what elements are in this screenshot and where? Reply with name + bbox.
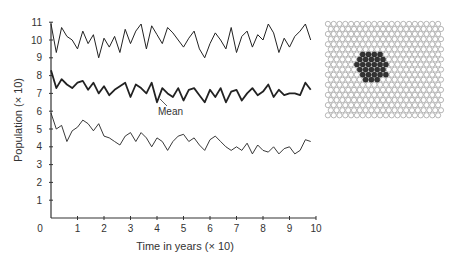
lattice-cell xyxy=(363,47,368,52)
lattice-cell xyxy=(383,31,388,36)
lattice-cell xyxy=(331,52,336,57)
lattice-cell xyxy=(386,47,391,52)
cluster-cell xyxy=(380,57,385,62)
lattice-cell xyxy=(354,113,359,118)
lattice-cell xyxy=(418,52,423,57)
lattice-cell xyxy=(349,72,354,77)
lattice-cell xyxy=(386,87,391,92)
lattice-cell xyxy=(424,82,429,87)
lattice-cell xyxy=(436,52,441,57)
lattice-cell xyxy=(349,113,354,118)
lattice-cell xyxy=(337,82,342,87)
lattice-cell xyxy=(438,26,443,31)
series-upper xyxy=(51,24,311,58)
lattice-cell xyxy=(337,113,342,118)
lattice-cell xyxy=(421,108,426,113)
lattice-cell xyxy=(436,62,441,67)
lattice-cell xyxy=(427,57,432,62)
lattice-cell xyxy=(404,57,409,62)
lattice-cell xyxy=(424,113,429,118)
lattice-cell xyxy=(378,92,383,97)
y-tick-label: 9 xyxy=(36,52,42,63)
lattice-cell xyxy=(404,77,409,82)
y-tick-label: 7 xyxy=(36,88,42,99)
lattice-cell xyxy=(378,82,383,87)
lattice-cell xyxy=(343,82,348,87)
lattice-cell xyxy=(383,103,388,108)
lattice-cell xyxy=(354,82,359,87)
lattice-cell xyxy=(346,67,351,72)
lattice-cell xyxy=(325,92,330,97)
cluster-cell xyxy=(372,62,377,67)
lattice-cell xyxy=(354,31,359,36)
x-tick-label: 6 xyxy=(207,223,213,234)
lattice-cell xyxy=(389,103,394,108)
lattice-cell xyxy=(433,57,438,62)
lattice-cell xyxy=(427,97,432,102)
lattice-cell xyxy=(366,31,371,36)
lattice-cell xyxy=(337,31,342,36)
lattice-cell xyxy=(328,77,333,82)
lattice-cell xyxy=(383,82,388,87)
lattice-cell xyxy=(427,67,432,72)
lattice-cell xyxy=(415,37,420,42)
lattice-cell xyxy=(389,52,394,57)
lattice-cell xyxy=(325,82,330,87)
lattice-cell xyxy=(392,67,397,72)
lattice-cell xyxy=(380,77,385,82)
lattice-cell xyxy=(378,103,383,108)
lattice-cell xyxy=(357,47,362,52)
axes: 1234567891011012345678910Time in years (… xyxy=(12,17,322,252)
lattice-cell xyxy=(366,21,371,26)
lattice-cell xyxy=(383,21,388,26)
lattice-cell xyxy=(372,31,377,36)
lattice-cell xyxy=(409,26,414,31)
lattice-cell xyxy=(398,67,403,72)
lattice-cell xyxy=(351,47,356,52)
lattice-cell xyxy=(395,21,400,26)
lattice-cell xyxy=(392,97,397,102)
lattice-cell xyxy=(360,113,365,118)
mean-annotation: Mean xyxy=(158,99,183,117)
lattice-cell xyxy=(325,72,330,77)
lattice-cell xyxy=(424,31,429,36)
lattice-cell xyxy=(415,108,420,113)
lattice-cell xyxy=(363,97,368,102)
lattice-cell xyxy=(436,113,441,118)
lattice-cell xyxy=(337,72,342,77)
lattice-cell xyxy=(415,26,420,31)
lattice-cell xyxy=(395,82,400,87)
lattice-cell xyxy=(357,108,362,113)
lattice-cell xyxy=(438,108,443,113)
lattice-cell xyxy=(404,108,409,113)
lattice-cell xyxy=(337,62,342,67)
lattice-cell xyxy=(366,103,371,108)
cluster-cell xyxy=(360,72,365,77)
lattice-cell xyxy=(375,87,380,92)
lattice-cell xyxy=(334,87,339,92)
lattice-cell xyxy=(325,113,330,118)
lattice-cell xyxy=(328,87,333,92)
cluster-cell xyxy=(375,57,380,62)
lattice-cell xyxy=(433,67,438,72)
lattice-cell xyxy=(354,21,359,26)
x-tick-label: 0 xyxy=(37,223,43,234)
cluster-cell xyxy=(380,67,385,72)
lattice-cell xyxy=(340,47,345,52)
cluster-cell xyxy=(366,62,371,67)
lattice-cell xyxy=(325,21,330,26)
lattice-cell xyxy=(430,21,435,26)
lattice-cell xyxy=(328,67,333,72)
x-tick-label: 7 xyxy=(234,223,240,234)
lattice-cell xyxy=(346,87,351,92)
lattice-cell xyxy=(409,67,414,72)
lattice-cell xyxy=(433,26,438,31)
lattice-cell xyxy=(351,37,356,42)
lattice-cell xyxy=(389,82,394,87)
lattice-cell xyxy=(395,42,400,47)
lattice-cell xyxy=(340,77,345,82)
lattice-cell xyxy=(395,62,400,67)
cluster-cell xyxy=(366,52,371,57)
lattice-cell xyxy=(407,103,412,108)
lattice-cell xyxy=(427,37,432,42)
